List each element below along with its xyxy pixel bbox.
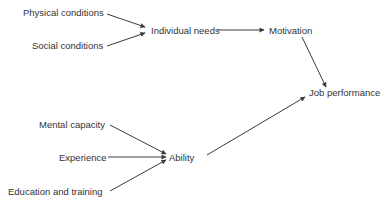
edge-mental-to-ability xyxy=(110,125,166,154)
edge-social-to-needs xyxy=(107,33,145,46)
edge-ability-to-performance xyxy=(207,97,305,155)
node-motivation: Motivation xyxy=(269,25,312,36)
node-job-performance: Job performance xyxy=(309,87,380,98)
edge-motivation-to-performance xyxy=(302,37,326,87)
node-education-and-training: Education and training xyxy=(8,186,103,197)
job-performance-diagram: Physical conditions Social conditions In… xyxy=(0,0,387,205)
edge-physical-to-needs xyxy=(107,14,145,27)
edge-education-to-ability xyxy=(110,160,166,191)
node-mental-capacity: Mental capacity xyxy=(39,119,105,130)
node-physical-conditions: Physical conditions xyxy=(23,7,104,18)
node-individual-needs: Individual needs xyxy=(151,25,220,36)
node-social-conditions: Social conditions xyxy=(32,40,103,51)
node-experience: Experience xyxy=(59,152,107,163)
node-ability: Ability xyxy=(169,152,194,163)
